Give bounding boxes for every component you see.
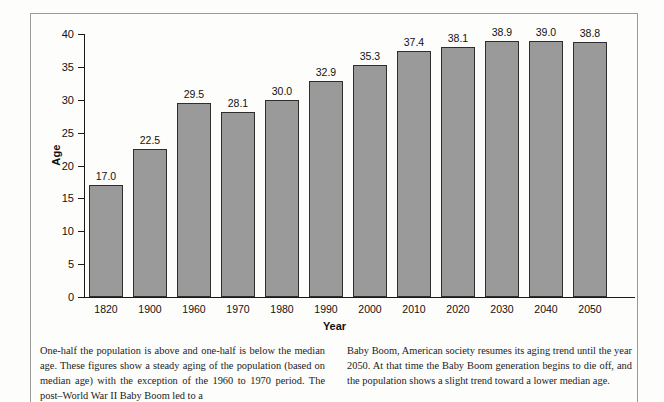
bar-value-label: 35.3 [360, 50, 380, 62]
bar-chart: Age Year 0510152025303540 17.022.529.528… [30, 13, 639, 338]
bar-column: 30.0 [265, 34, 299, 297]
x-tick-label: 1820 [84, 303, 128, 315]
bar [265, 100, 299, 297]
bar-column: 38.1 [441, 34, 475, 297]
y-axis-title: Age [50, 125, 62, 185]
bar-column: 39.0 [529, 34, 563, 297]
x-tick-label: 1960 [172, 303, 216, 315]
bar [177, 103, 211, 297]
bar-value-label: 38.8 [580, 27, 600, 39]
bar-column: 22.5 [133, 34, 167, 297]
x-tick-label: 1980 [260, 303, 304, 315]
bar-value-label: 39.0 [536, 26, 556, 38]
bar-column: 32.9 [309, 34, 343, 297]
bar-value-label: 29.5 [184, 88, 204, 100]
x-tick-label: 2030 [480, 303, 524, 315]
bar-column: 38.9 [485, 34, 519, 297]
y-tick-mark [78, 297, 84, 298]
x-tick-label: 1970 [216, 303, 260, 315]
bar-column: 17.0 [89, 34, 123, 297]
bar [441, 47, 475, 298]
bar-value-label: 28.1 [228, 97, 248, 109]
y-tick-label: 35 [62, 61, 74, 73]
x-tick-label: 2020 [436, 303, 480, 315]
caption-column-right: Baby Boom, American society resumes its … [347, 344, 632, 402]
y-tick-label: 15 [62, 192, 74, 204]
x-tick-label: 2010 [392, 303, 436, 315]
bar-value-label: 38.9 [492, 26, 512, 38]
y-tick-label: 25 [62, 127, 74, 139]
bar-value-label: 17.0 [96, 170, 116, 182]
bar [309, 81, 343, 297]
bar-column: 35.3 [353, 34, 387, 297]
bar-value-label: 30.0 [272, 85, 292, 97]
caption-text-left: One-half the population is above and one… [40, 344, 325, 402]
bar-column: 29.5 [177, 34, 211, 297]
y-tick-label: 40 [62, 28, 74, 40]
bar [221, 112, 255, 297]
bar-value-label: 38.1 [448, 32, 468, 44]
bar [133, 149, 167, 297]
x-tick-label: 1900 [128, 303, 172, 315]
bar [485, 41, 519, 297]
x-tick-label: 2050 [568, 303, 612, 315]
x-tick-label: 1990 [304, 303, 348, 315]
y-tick-label: 0 [68, 291, 74, 303]
bar-column: 37.4 [397, 34, 431, 297]
caption-text-right: Baby Boom, American society resumes its … [347, 344, 632, 389]
y-tick-label: 10 [62, 225, 74, 237]
x-tick-label: 2040 [524, 303, 568, 315]
bar-value-label: 32.9 [316, 66, 336, 78]
y-tick-label: 5 [68, 258, 74, 270]
y-tick-label: 20 [62, 160, 74, 172]
bar-column: 38.8 [573, 34, 607, 297]
x-axis-line [84, 297, 635, 298]
bar-column: 28.1 [221, 34, 255, 297]
x-axis-title: Year [30, 320, 639, 332]
y-tick-label: 30 [62, 94, 74, 106]
x-tick-label: 2000 [348, 303, 392, 315]
plot-area: 17.022.529.528.130.032.935.337.438.138.9… [84, 34, 612, 297]
bar-value-label: 37.4 [404, 36, 424, 48]
bar-value-label: 22.5 [140, 134, 160, 146]
bar [397, 51, 431, 297]
bar [89, 185, 123, 297]
figure-caption: One-half the population is above and one… [40, 344, 632, 402]
bar [573, 42, 607, 297]
bar [529, 41, 563, 297]
caption-column-left: One-half the population is above and one… [40, 344, 325, 402]
bar [353, 65, 387, 297]
